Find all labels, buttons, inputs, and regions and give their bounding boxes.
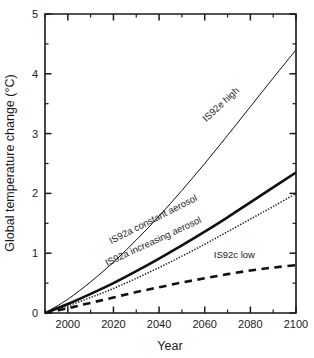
- y-tick-label: 1: [32, 247, 38, 259]
- y-tick-label: 0: [32, 307, 38, 319]
- y-tick-label: 4: [32, 68, 38, 80]
- x-tick-label: 2000: [56, 318, 80, 330]
- x-axis-ticks: [45, 14, 296, 313]
- x-axis-title: Year: [157, 339, 182, 353]
- data-series-group: [45, 50, 296, 313]
- series-line-0: [45, 50, 296, 313]
- y-tick-label: 3: [32, 128, 38, 140]
- line-chart: 200020202040206020802100 012345 IS92e hi…: [0, 0, 314, 358]
- series-label-3: IS92c low: [214, 249, 255, 260]
- plot-frame: [45, 14, 296, 313]
- y-axis-ticks: [45, 14, 296, 313]
- axis-frame: [45, 14, 296, 313]
- y-axis-title: Global temperature change (°C): [3, 74, 17, 251]
- y-tick-label: 2: [32, 187, 38, 199]
- x-tick-label: 2080: [238, 318, 262, 330]
- x-axis-tick-labels: 200020202040206020802100: [56, 318, 309, 330]
- x-tick-label: 2100: [284, 318, 308, 330]
- series-line-1: [45, 172, 296, 313]
- series-labels-group: IS92e highIS92a constant aerosolIS92a in…: [103, 85, 255, 269]
- chart-figure: 200020202040206020802100 012345 IS92e hi…: [0, 0, 314, 358]
- x-tick-label: 2040: [147, 318, 171, 330]
- series-label-0: IS92e high: [200, 85, 241, 124]
- x-tick-label: 2020: [101, 318, 125, 330]
- series-line-3: [45, 265, 296, 313]
- y-axis-tick-labels: 012345: [32, 8, 38, 319]
- y-tick-label: 5: [32, 8, 38, 20]
- x-tick-label: 2060: [192, 318, 216, 330]
